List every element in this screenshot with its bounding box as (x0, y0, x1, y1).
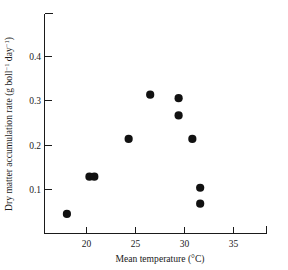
y-tick-label-2: 0.2 (29, 141, 41, 151)
y-axis-tick-labels: 0.4 0.3 0.2 0.1 (29, 52, 41, 195)
x-axis-tick-labels: 20 25 30 35 (82, 239, 239, 249)
x-tick-label-2: 30 (180, 239, 190, 249)
y-axis-title-mid: day (3, 47, 14, 63)
data-point (175, 111, 183, 119)
data-point (146, 91, 154, 99)
data-point (188, 135, 196, 143)
scatter-plot-figure: 0.4 0.3 0.2 0.1 20 25 30 35 Mean tempera… (0, 0, 288, 270)
y-tick-label-3: 0.1 (29, 185, 41, 195)
y-tick-label-1: 0.3 (29, 96, 41, 106)
y-axis-title-sup-2: −1 (3, 40, 10, 47)
x-tick-label-3: 35 (229, 239, 239, 249)
y-axis-title: Dry matter accumulation rate (g boll−1 d… (3, 37, 16, 211)
y-axis-title-main: Dry matter accumulation rate (g boll (3, 70, 15, 211)
y-tick-label-0: 0.4 (29, 52, 41, 62)
x-axis-title: Mean temperature (°C) (115, 253, 204, 265)
x-tick-label-0: 20 (82, 239, 92, 249)
y-axis-title-tail: ) (3, 37, 15, 40)
x-tick-label-1: 25 (131, 239, 141, 249)
data-point (196, 184, 204, 192)
data-point (196, 200, 204, 208)
data-point (63, 210, 71, 218)
chart-canvas: 0.4 0.3 0.2 0.1 20 25 30 35 Mean tempera… (0, 0, 288, 270)
data-point (125, 135, 133, 143)
data-point (90, 173, 98, 181)
x-axis-ticks (87, 227, 234, 234)
y-axis-ticks (45, 57, 52, 190)
data-point (175, 94, 183, 102)
data-points-layer (63, 91, 204, 218)
y-axis-title-sup-1: −1 (3, 64, 10, 71)
